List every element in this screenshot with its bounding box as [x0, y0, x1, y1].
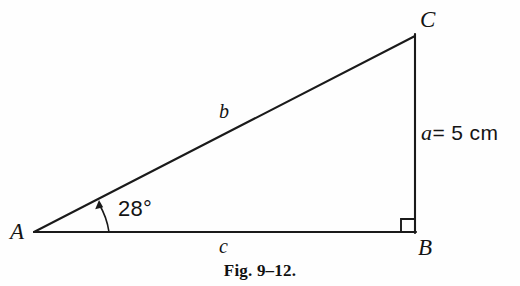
- figure-container: A B C b c a= 5 cm 28° Fig. 9–12.: [0, 0, 520, 286]
- figure-caption: Fig. 9–12.: [0, 261, 520, 281]
- side-a-variable: a: [421, 120, 432, 145]
- side-label-c: c: [219, 236, 228, 256]
- angle-a-arc: [99, 204, 109, 232]
- vertex-label-a: A: [10, 220, 24, 243]
- angle-a-label: 28°: [118, 198, 152, 220]
- side-a-measurement-label: a= 5 cm: [421, 122, 498, 144]
- vertex-label-b: B: [418, 236, 432, 259]
- right-angle-marker-icon: [401, 219, 414, 232]
- side-a-value-text: = 5 cm: [432, 121, 498, 144]
- side-b-line: [34, 36, 415, 232]
- side-label-b: b: [219, 101, 229, 121]
- vertex-label-c: C: [420, 8, 435, 31]
